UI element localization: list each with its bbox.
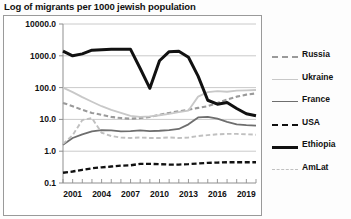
legend-swatch-ukraine (272, 79, 298, 80)
legend-label-ethiopia: Ethiopia (302, 139, 336, 149)
x-axis-tick-label: 2004 (89, 189, 115, 199)
y-axis-tick-label: 1000.0 (4, 51, 56, 61)
y-axis-tick-label: 10.0 (4, 114, 56, 124)
x-axis-tick-label: 2001 (60, 189, 86, 199)
legend-item-ethiopia[interactable]: Ethiopia (272, 138, 350, 156)
x-axis-tick-label: 2016 (204, 189, 230, 199)
legend-swatch-france (272, 101, 298, 102)
legend-swatch-amlat (272, 169, 298, 170)
legend-item-russia[interactable]: Russia (272, 48, 350, 66)
series-line-france (63, 117, 256, 145)
y-axis-tick-label: 0.1 (4, 178, 56, 188)
y-axis-tick-label: 10000.0 (4, 19, 56, 29)
legend-label-russia: Russia (302, 49, 330, 59)
legend-item-amlat[interactable]: AmLat (272, 161, 350, 179)
series-line-usa (63, 162, 256, 173)
legend-label-ukraine: Ukraine (302, 72, 333, 82)
legend-swatch-russia (272, 56, 298, 58)
legend-item-ukraine[interactable]: Ukraine (272, 71, 350, 89)
chart-legend: RussiaUkraineFranceUSAEthiopiaAmLat (272, 48, 350, 184)
legend-label-amlat: AmLat (302, 162, 328, 172)
legend-item-usa[interactable]: USA (272, 116, 350, 134)
x-axis-tick-label: 2019 (233, 189, 259, 199)
legend-label-france: France (302, 94, 330, 104)
chart-figure: Log of migrants per 1000 jewish populati… (0, 0, 351, 219)
x-axis-tick-label: 2013 (175, 189, 201, 199)
legend-swatch-ethiopia (272, 146, 298, 149)
legend-label-usa: USA (302, 117, 320, 127)
legend-item-france[interactable]: France (272, 93, 350, 111)
y-axis-tick-label: 100.0 (4, 83, 56, 93)
x-axis-tick-label: 2010 (147, 189, 173, 199)
series-line-ethiopia (63, 49, 256, 115)
x-axis-tick-label: 2007 (118, 189, 144, 199)
y-axis-tick-label: 1.0 (4, 146, 56, 156)
legend-swatch-usa (272, 124, 298, 126)
